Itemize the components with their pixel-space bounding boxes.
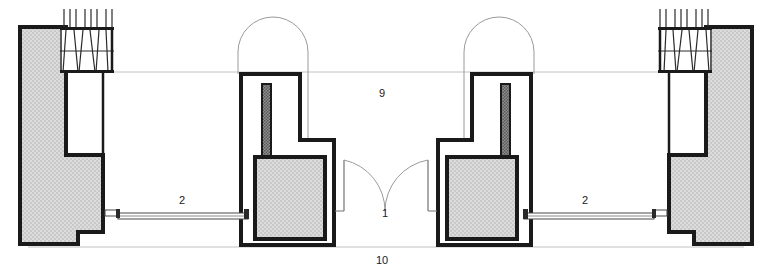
right-wall-head-detail xyxy=(658,9,712,73)
door-swing-right xyxy=(385,160,437,211)
door-swing-left xyxy=(335,160,385,211)
left-tie-beam-end-left xyxy=(116,209,120,218)
left-wall-head-detail xyxy=(60,9,114,73)
left-tie-beam-profile xyxy=(105,210,248,219)
right-tie-beam-end-left xyxy=(523,209,528,219)
left-pier-shaft xyxy=(262,84,271,162)
callout-1: 1 xyxy=(382,207,388,219)
right-pier-shaft xyxy=(501,84,510,162)
right-head-top-plate xyxy=(658,27,712,30)
left-head-bottom-plate xyxy=(60,70,114,73)
left-rebar-ticks xyxy=(64,9,112,27)
left-head-top-plate xyxy=(60,27,114,30)
left-pier-base-block xyxy=(255,157,325,239)
callout-2-right: 2 xyxy=(582,194,588,206)
left-pier-column xyxy=(238,17,334,245)
callout-9: 9 xyxy=(379,87,385,99)
right-rebar-ticks xyxy=(660,9,708,27)
diagram-canvas: 1 2 2 9 10 xyxy=(0,0,772,270)
right-head-bottom-plate xyxy=(658,70,712,73)
right-tie-beam xyxy=(523,209,667,219)
structural-section-diagram: 1 2 2 9 10 xyxy=(0,0,772,270)
right-pier-base-block xyxy=(447,157,517,239)
left-tie-beam xyxy=(105,209,249,219)
reference-lines xyxy=(28,72,744,247)
right-tie-beam-profile xyxy=(524,210,667,219)
callout-2-left: 2 xyxy=(179,194,185,206)
door-swing-arc-right xyxy=(385,160,428,211)
door-swing-arc-left xyxy=(344,160,385,211)
right-tie-beam-end-right xyxy=(652,209,656,218)
callout-10: 10 xyxy=(376,254,388,266)
left-tie-beam-end-right xyxy=(244,209,249,219)
right-pier-column xyxy=(438,17,534,245)
